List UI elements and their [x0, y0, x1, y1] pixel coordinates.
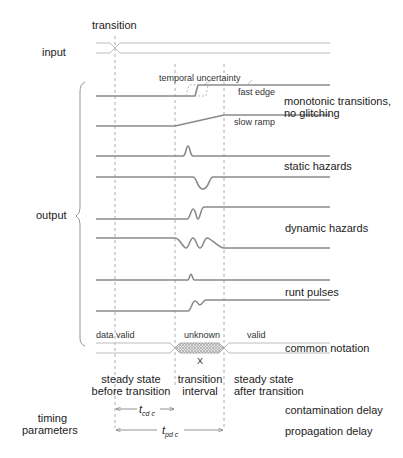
monotonic-label-2: no glitching: [284, 107, 340, 119]
transition-interval-label: transition interval: [176, 373, 224, 397]
temporal-uncertainty-edges: [186, 85, 215, 96]
unknown-label: unknown: [184, 330, 220, 340]
valid-label: valid: [247, 330, 266, 340]
output-brace: [76, 82, 85, 346]
propagation-delay-label: propagation delay: [285, 425, 372, 437]
dynamic-hazard-rising: [96, 207, 330, 219]
common-notation-label: common notation: [285, 342, 369, 354]
tpd-label: tpd c: [162, 424, 178, 441]
output-label: output: [36, 209, 67, 221]
timing-parameters-label: timing parameters: [22, 412, 67, 436]
static-hazard-low: [96, 177, 330, 189]
steady-before-label: steady state before transition: [88, 373, 174, 397]
temporal-uncertainty-label: temporal uncertainty: [159, 73, 241, 83]
runt-pulses-label: runt pulses: [285, 286, 339, 298]
input-bus: [96, 43, 330, 53]
fast-edge-label: fast edge: [238, 87, 275, 97]
runt-pulse-1: [96, 274, 330, 280]
steady-after-label: steady state after transition: [234, 373, 304, 397]
static-hazards-label: static hazards: [284, 160, 352, 172]
runt-pulse-2: [96, 300, 330, 311]
input-label: input: [42, 46, 66, 58]
data-valid-label: data valid: [96, 330, 135, 340]
x-symbol: X: [197, 356, 203, 366]
contamination-delay-label: contamination delay: [285, 404, 383, 416]
static-hazard-high: [96, 146, 330, 156]
dynamic-hazards-label: dynamic hazards: [285, 222, 368, 234]
transition-label: transition: [92, 19, 137, 31]
slow-ramp-label: slow ramp: [234, 117, 275, 127]
monotonic-label-1: monotonic transitions,: [284, 95, 391, 107]
dashed-markers: [115, 36, 224, 428]
tcd-label: tcd c: [139, 403, 155, 420]
dynamic-hazard-falling: [96, 238, 330, 248]
unknown-hatched-region: [175, 343, 224, 353]
